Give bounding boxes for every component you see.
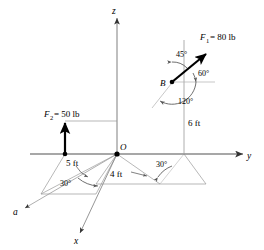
y-axis-label: y <box>246 151 252 161</box>
angle-60-label: 60° <box>198 69 209 78</box>
dim-4ft-leader <box>131 172 147 176</box>
force-f2-subscript: 2 <box>50 114 53 121</box>
angle-30-right-label: 30° <box>156 160 167 169</box>
angle-30-left-label: 30° <box>60 179 71 188</box>
force-f1-label: F 1 = 80 lb <box>199 32 236 44</box>
dim-6ft-label: 6 ft <box>188 118 201 128</box>
dim-4ft-label: 4 ft <box>110 169 123 179</box>
x-axis-line <box>80 154 117 233</box>
angle-30-left-arc <box>78 178 98 186</box>
force-f2-symbol: F <box>43 109 50 119</box>
force-f1-symbol: F <box>199 32 206 42</box>
angle-45-label: 45° <box>176 50 187 59</box>
force-f1-value: = 80 lb <box>210 32 236 42</box>
figure-container: z y x a O B F 1 = 80 lb F 2 = 50 lb 45° … <box>0 0 264 250</box>
force-f2-value: = 50 lb <box>54 109 80 119</box>
force-f2-label: F 2 = 50 lb <box>43 109 80 121</box>
angle-60-arc <box>193 73 196 82</box>
point-b-label: B <box>160 78 166 88</box>
figure-svg: z y x a O B F 1 = 80 lb F 2 = 50 lb 45° … <box>0 0 264 250</box>
a-axis-label: a <box>13 207 18 217</box>
origin-label: O <box>120 142 127 152</box>
origin-dot <box>114 151 119 156</box>
force-f1-subscript: 1 <box>206 37 209 44</box>
angle-120-label: 120° <box>178 97 193 106</box>
x-axis-label: x <box>73 236 79 246</box>
dim-5ft-label: 5 ft <box>66 158 79 168</box>
angle-45-arc <box>172 62 187 68</box>
point-b-dot <box>170 80 175 85</box>
z-axis-label: z <box>111 6 116 16</box>
base-plane-left-quad <box>41 154 117 194</box>
base-plane-guides <box>160 154 184 184</box>
force-f2-base-dot <box>63 152 68 157</box>
